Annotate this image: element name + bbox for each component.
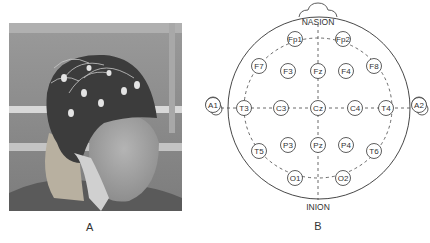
electrode-label: F7 [254, 62, 264, 71]
electrode-t6: T6 [367, 144, 382, 159]
electrode-label: P3 [283, 141, 293, 150]
electrode-label: Pz [313, 141, 322, 150]
electrode-label: F8 [369, 62, 379, 71]
electrode-f4: F4 [339, 64, 354, 79]
electrode-fp1: Fp1 [288, 32, 303, 47]
electrode-t5: T5 [252, 144, 267, 159]
electrode-label: Fp1 [288, 35, 302, 44]
electrode-label: T5 [254, 147, 264, 156]
electrode-t3: T3 [237, 101, 252, 116]
electrode-label: Fz [314, 67, 323, 76]
panel-b-label: B [314, 220, 321, 232]
electrode-p4: P4 [339, 138, 354, 153]
electrode-a2: A2 [412, 98, 427, 113]
electrode-label: T3 [239, 104, 249, 113]
electrode-p3: P3 [281, 138, 296, 153]
electrode-label: C3 [276, 104, 287, 113]
electrode-fp2: Fp2 [336, 32, 351, 47]
electrode-label: Cz [313, 104, 323, 113]
electrode-a1: A1 [206, 98, 221, 113]
electrode-f3: F3 [281, 64, 296, 79]
electrode-o2: O2 [336, 171, 351, 186]
electrode-c4: C4 [348, 101, 363, 116]
electrode-cz: Cz [311, 101, 326, 116]
electrode-label: A2 [414, 101, 424, 110]
electrode-placement-diagram: Fp1Fp2F7F3FzF4F8T3C3CzC4T4T5P3PzP4T6O1O2… [0, 0, 430, 243]
electrode-c3: C3 [274, 101, 289, 116]
electrode-label: T6 [369, 147, 379, 156]
electrode-label: P4 [341, 141, 351, 150]
electrode-f8: F8 [367, 59, 382, 74]
electrode-label: Fp2 [336, 35, 350, 44]
electrode-label: F3 [283, 67, 293, 76]
electrode-label: A1 [208, 101, 218, 110]
electrode-label: O1 [290, 174, 301, 183]
electrode-o1: O1 [288, 171, 303, 186]
electrode-fz: Fz [311, 64, 326, 79]
electrode-label: T4 [381, 104, 391, 113]
electrode-t4: T4 [379, 101, 394, 116]
electrode-pz: Pz [311, 138, 326, 153]
inion-label: INION [306, 202, 330, 212]
electrode-f7: F7 [252, 59, 267, 74]
nasion-label: NASION [302, 17, 335, 27]
electrode-label: C4 [350, 104, 361, 113]
electrode-label: O2 [338, 174, 349, 183]
electrode-label: F4 [341, 67, 351, 76]
nose-icon [299, 3, 337, 17]
